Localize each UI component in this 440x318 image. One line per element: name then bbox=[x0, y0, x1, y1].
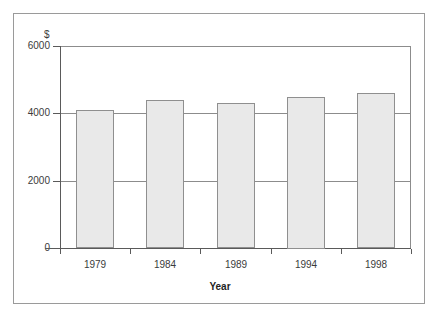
y-tick-mark bbox=[53, 113, 60, 114]
x-tick-mark bbox=[341, 249, 342, 254]
y-tick-label: 4000 bbox=[0, 108, 50, 118]
x-tick-label: 1979 bbox=[65, 259, 125, 270]
bar bbox=[217, 103, 255, 248]
plot-right-spine bbox=[410, 46, 411, 249]
bar bbox=[357, 93, 395, 248]
y-tick-mark bbox=[53, 181, 60, 182]
x-tick-label: 1994 bbox=[276, 259, 336, 270]
bar bbox=[287, 97, 325, 249]
x-tick-mark bbox=[60, 249, 61, 254]
bar bbox=[146, 100, 184, 248]
x-axis-title: Year bbox=[0, 281, 440, 292]
x-tick-mark bbox=[271, 249, 272, 254]
x-tick-label: 1998 bbox=[346, 259, 406, 270]
x-tick-label: 1989 bbox=[206, 259, 266, 270]
bar bbox=[76, 110, 114, 248]
x-tick-mark bbox=[411, 249, 412, 254]
y-tick-label: 2000 bbox=[0, 176, 50, 186]
y-axis-unit-label: $ bbox=[44, 30, 50, 40]
y-tick-mark bbox=[53, 46, 60, 47]
x-axis-spine bbox=[45, 248, 411, 249]
x-tick-label: 1984 bbox=[135, 259, 195, 270]
x-tick-mark bbox=[200, 249, 201, 254]
y-axis-spine bbox=[60, 46, 61, 249]
y-tick-label: 6000 bbox=[0, 41, 50, 51]
gridline bbox=[60, 46, 411, 47]
bar-chart-figure: $ 0200040006000 19791984198919941998 Yea… bbox=[0, 0, 440, 318]
y-tick-label: 0 bbox=[0, 243, 50, 253]
x-tick-mark bbox=[130, 249, 131, 254]
